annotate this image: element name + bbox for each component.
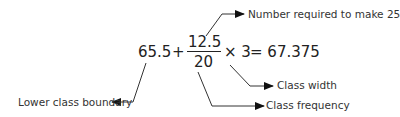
lower-boundary-label: Lower class boundary: [18, 96, 132, 108]
numerator-value: 12.5: [188, 33, 221, 51]
result-value: = 67.375: [250, 43, 320, 61]
class-width-label: Class width: [277, 79, 337, 91]
plus-sign: +: [172, 43, 185, 61]
class-frequency-arrow: [198, 72, 264, 106]
denominator-value: 20: [194, 53, 213, 71]
class-width-arrow: [230, 65, 273, 86]
class-frequency-label: Class frequency: [266, 99, 350, 111]
fraction-bar: [187, 51, 221, 52]
multiply-term: × 3: [224, 43, 251, 61]
lower-boundary-value: 65.5: [138, 43, 171, 61]
numerator-label: Number required to make 25: [248, 8, 400, 20]
